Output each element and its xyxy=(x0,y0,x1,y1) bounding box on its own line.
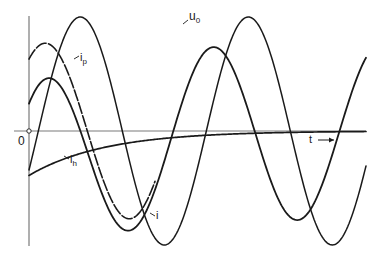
transient-response-diagram: 0 t u0 ip ih i xyxy=(0,0,380,261)
origin-label: 0 xyxy=(18,134,25,148)
label-ip-sub: p xyxy=(82,57,87,66)
label-u0-main: u xyxy=(189,9,196,23)
arrow-right-icon xyxy=(318,138,334,143)
label-i: i xyxy=(150,209,158,221)
svg-text:u0: u0 xyxy=(189,9,201,25)
label-ip: ip xyxy=(74,51,87,66)
svg-text:ip: ip xyxy=(80,51,87,66)
time-axis-label: t xyxy=(309,133,312,145)
label-ih-sub: h xyxy=(72,159,76,168)
curve-i xyxy=(29,47,366,231)
label-u0-sub: 0 xyxy=(196,16,201,25)
origin-marker xyxy=(27,129,31,133)
label-i-main: i xyxy=(156,209,158,221)
label-u0: u0 xyxy=(183,9,201,25)
